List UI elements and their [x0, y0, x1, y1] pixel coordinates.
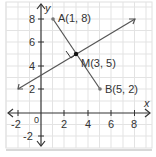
x-axis-label: x: [143, 97, 150, 109]
x-tick-label: -2: [11, 118, 21, 130]
point-b-label: B(5, 2): [105, 83, 138, 95]
x-tick-label: 6: [108, 118, 114, 130]
x-tick-label: 2: [61, 118, 67, 130]
point-m: [74, 52, 78, 56]
y-tick-label: 2: [29, 83, 35, 95]
point-b: [98, 87, 102, 91]
point-a-label: A(1, 8): [58, 12, 91, 24]
origin-label: 0: [34, 115, 39, 125]
y-tick-label: 8: [29, 13, 35, 25]
x-tick-label: 8: [131, 118, 137, 130]
x-tick-label: 4: [85, 118, 91, 130]
y-tick-label: 4: [29, 60, 35, 72]
coordinate-plane-diagram: -2 2 4 6 8 0 -2 2 4 6 8 x y A(1, 8) M(3,…: [0, 0, 156, 157]
point-a: [51, 17, 55, 21]
y-tick-label: 6: [29, 36, 35, 48]
point-m-label: M(3, 5): [81, 57, 116, 69]
y-tick-label: -2: [23, 130, 33, 142]
